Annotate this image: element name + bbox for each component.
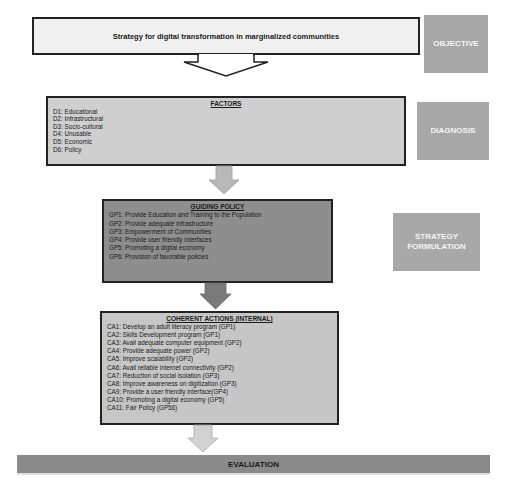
evaluation-bar: EVALUATION	[17, 455, 490, 475]
arrow-down-light-icon	[0, 0, 506, 460]
evaluation-text: EVALUATION	[228, 460, 279, 469]
